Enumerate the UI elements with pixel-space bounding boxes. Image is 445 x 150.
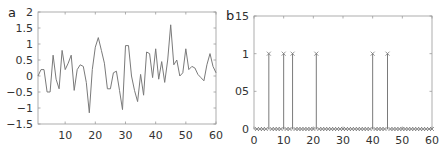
- y-tick-label: 0.5: [16, 54, 34, 67]
- x-tick-label: 20: [306, 134, 320, 147]
- panel-a-label: a: [8, 5, 16, 20]
- figure: a −1.5−1−0.500.511.52 102030405060 b 005…: [0, 0, 445, 150]
- y-tick-label: 0: [242, 123, 249, 136]
- x-tick-label: 60: [209, 129, 223, 142]
- panel-b-stems: [255, 52, 434, 131]
- panel-b-stem-chart: b 005115 0102030405060: [226, 8, 439, 147]
- x-tick-label: 10: [277, 134, 291, 147]
- x-tick-label: 40: [366, 134, 380, 147]
- y-tick-label: 1: [26, 38, 33, 51]
- y-tick-label: −0.5: [6, 86, 33, 99]
- x-tick-label: 30: [118, 129, 132, 142]
- y-tick-label: 05: [235, 85, 249, 98]
- x-tick-label: 20: [88, 129, 102, 142]
- y-tick-label: 1.5: [16, 22, 34, 35]
- x-tick-label: 50: [179, 129, 193, 142]
- x-tick-label: 10: [58, 129, 72, 142]
- y-tick-label: 15: [235, 10, 249, 23]
- y-tick-label: −1.5: [6, 118, 33, 131]
- y-tick-label: −1: [17, 102, 33, 115]
- y-tick-label: 0: [26, 70, 33, 83]
- y-tick-label: 1: [242, 48, 249, 61]
- panel-b-y-axis: 005115: [235, 10, 432, 136]
- panel-a-line-chart: a −1.5−1−0.500.511.52 102030405060: [6, 5, 223, 142]
- x-tick-label: 30: [336, 134, 350, 147]
- x-tick-label: 40: [149, 129, 163, 142]
- x-tick-label: 60: [425, 134, 439, 147]
- x-tick-label: 50: [395, 134, 409, 147]
- panel-a-series-line: [38, 25, 216, 113]
- y-tick-label: 2: [26, 6, 33, 19]
- panel-b-axes-frame: [254, 16, 432, 129]
- x-tick-label: 0: [251, 134, 258, 147]
- panel-b-label: b: [226, 8, 234, 23]
